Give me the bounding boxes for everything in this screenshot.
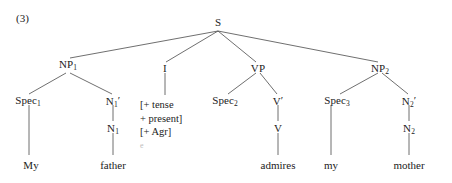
node-spec2-subscript: 2: [234, 99, 238, 108]
node-nbar2-prime: ′: [414, 94, 417, 106]
node-spec1-label: Spec: [15, 94, 37, 106]
node-np1-subscript: 1: [73, 63, 77, 72]
leaf-my-determiner: My: [23, 159, 38, 171]
leaf-father-noun: father: [100, 159, 126, 171]
node-vp-label: VP: [251, 62, 265, 74]
node-nbar1-label: N: [106, 95, 114, 107]
infl-empty-category-marker: e: [140, 139, 182, 152]
node-spec2: Spec2: [212, 94, 238, 110]
node-np2-subscript: 2: [385, 67, 389, 76]
node-nbar1: N1′: [106, 94, 120, 111]
node-n1: N1: [107, 122, 119, 138]
node-vbar-prime: ′: [281, 94, 284, 106]
node-v: V: [274, 122, 282, 134]
node-spec3: Spec3: [324, 94, 350, 110]
node-i: I: [163, 62, 167, 74]
node-nbar2: N2′: [402, 94, 416, 111]
node-vbar-label: V: [273, 95, 281, 107]
edge-vp-spec2: [228, 73, 256, 94]
node-n2-label: N: [403, 122, 411, 134]
node-spec3-label: Spec: [324, 94, 346, 106]
infl-feature-line-3: [+ Agr]: [140, 126, 171, 137]
node-spec1: Spec1: [15, 94, 41, 110]
infl-feature-matrix: [+ tense + present] [+ Agr] e: [140, 98, 182, 152]
syntax-tree-figure: (3): [0, 0, 452, 183]
infl-feature-line-1: [+ tense: [140, 99, 174, 110]
node-nbar1-prime: ′: [118, 94, 121, 106]
node-n1-label: N: [107, 122, 115, 134]
edge-np1-spec1: [29, 73, 66, 94]
node-spec2-label: Spec: [212, 94, 234, 106]
node-np1-label: NP: [59, 58, 73, 70]
node-vp: VP: [251, 62, 265, 74]
edge-vp-vbar: [260, 73, 277, 94]
edge-np1-nbar1: [70, 73, 112, 94]
node-vbar: V′: [273, 94, 284, 107]
node-np1: NP1: [59, 58, 77, 74]
infl-feature-line-2: + present]: [140, 113, 182, 124]
node-v-label: V: [274, 122, 282, 134]
node-i-label: I: [163, 62, 167, 74]
node-s: S: [215, 16, 221, 28]
node-spec3-subscript: 3: [346, 99, 350, 108]
node-np2: NP2: [371, 62, 389, 78]
node-n1-subscript: 1: [115, 127, 119, 136]
node-np2-label: NP: [371, 62, 385, 74]
leaf-mother-noun: mother: [393, 159, 424, 171]
node-n2-subscript: 2: [411, 127, 415, 136]
node-spec1-subscript: 1: [37, 99, 41, 108]
tree-branch-lines: [0, 0, 452, 183]
node-n2: N2: [403, 122, 415, 138]
edge-s-np2: [218, 31, 378, 62]
node-nbar2-label: N: [402, 95, 410, 107]
leaf-admires-verb: admires: [261, 159, 296, 171]
node-s-label: S: [215, 16, 221, 28]
leaf-my-determiner-2: my: [324, 159, 338, 171]
edge-s-vp: [218, 31, 256, 62]
